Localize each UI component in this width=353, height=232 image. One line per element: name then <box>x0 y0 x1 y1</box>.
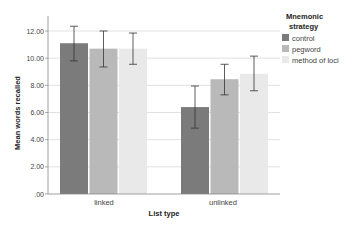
y-tick-label: 6.00 <box>30 109 44 116</box>
category-label-linked: linked <box>94 198 114 207</box>
y-tick-label: 12.00 <box>26 28 44 35</box>
y-tick-label: 10.00 <box>26 55 44 62</box>
legend-label-pegword: pegword <box>292 45 321 54</box>
bar-chart: .002.004.006.008.0010.0012.00 linked unl… <box>0 0 353 232</box>
bar-pegword-linked <box>90 49 118 194</box>
y-tick-labels: .002.004.006.008.0010.0012.00 <box>26 28 48 198</box>
legend-title-line1: Mnemonic <box>286 12 323 21</box>
bar-method-of-loci-unlinked <box>240 74 268 194</box>
x-axis-title: List type <box>149 209 180 218</box>
y-tick-label: 4.00 <box>30 136 44 143</box>
legend-swatch-method-of-loci <box>282 56 289 63</box>
y-tick-label: 2.00 <box>30 163 44 170</box>
bar-method-of-loci-linked <box>119 49 147 194</box>
legend-title-line2: strategy <box>289 22 319 31</box>
legend-swatch-pegword <box>282 45 289 52</box>
bar-pegword-unlinked <box>211 79 239 194</box>
bars <box>60 43 268 194</box>
y-tick-label: .00 <box>34 191 44 198</box>
y-tick-label: 8.00 <box>30 82 44 89</box>
legend: Mnemonic strategy control pegword method… <box>282 12 339 65</box>
category-label-unlinked: unlinked <box>209 198 237 207</box>
legend-label-control: control <box>292 34 315 43</box>
legend-swatch-control <box>282 34 289 41</box>
bar-control-linked <box>60 43 88 194</box>
legend-label-method-of-loci: method of loci <box>292 56 339 65</box>
y-axis-title: Mean words recalled <box>13 76 22 150</box>
